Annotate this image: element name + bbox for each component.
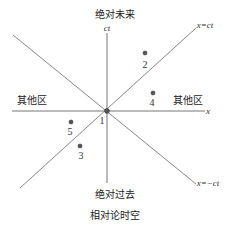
event-label-5: 5 [68, 126, 73, 137]
event-label-3: 3 [79, 150, 84, 161]
diagram-title: 相对论时空 [90, 209, 140, 221]
event-point-4: 4 [150, 91, 156, 108]
elsewhere-right-label: 其他区 [173, 94, 203, 106]
ct-axis-label: ct [104, 23, 111, 33]
event-label-4: 4 [150, 97, 155, 108]
event-label-1: 1 [100, 115, 105, 126]
event-point-2: 2 [143, 51, 148, 70]
elsewhere-left-label: 其他区 [17, 94, 47, 106]
light-line-negative [13, 35, 196, 184]
absolute-past-label: 绝对过去 [95, 188, 135, 200]
light-line-positive-label: x=ct [196, 20, 214, 30]
light-line-positive [20, 28, 196, 188]
event-point-3: 3 [78, 144, 84, 161]
event-label-2: 2 [143, 59, 148, 70]
absolute-future-label: 绝对未来 [95, 8, 135, 20]
x-axis-label: x [205, 106, 210, 116]
spacetime-diagram: 绝对未来 绝对过去 其他区 其他区 相对论时空 ct x x=ct x=−ct … [0, 0, 230, 228]
event-point-5: 5 [68, 120, 74, 137]
light-line-negative-label: x=−ct [196, 178, 220, 188]
